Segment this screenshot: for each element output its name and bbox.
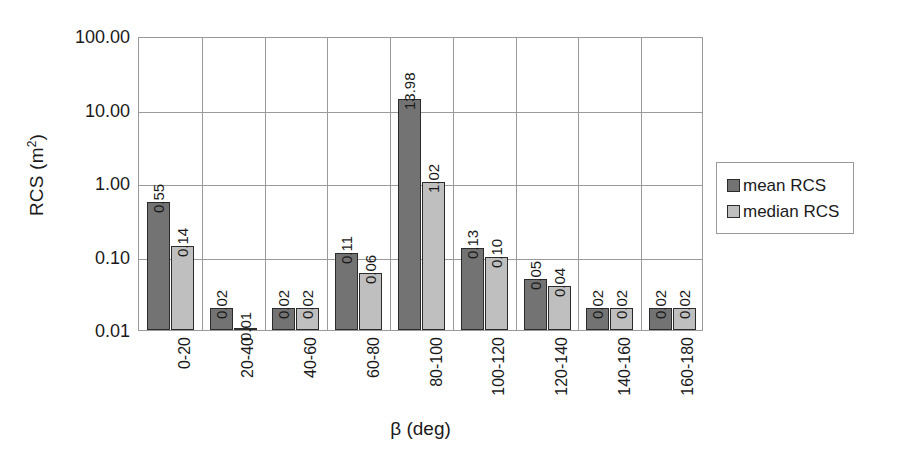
legend-item: median RCS [727,198,839,224]
y-axis-tick-label: 1.00 [36,175,130,193]
bar-group: 0.020.02 [649,38,696,330]
bar-value-label: 0.02 [300,290,315,319]
y-axis-tick-label: 10.00 [36,102,130,120]
bar-mean [147,202,170,330]
bar-mean [335,253,358,330]
vertical-gridline [453,38,454,330]
bar-value-label: 0.04 [552,268,567,297]
vertical-gridline [516,38,517,330]
bar-mean [461,248,484,330]
bar-median [422,182,445,330]
bar-median [171,246,194,330]
bar-value-label: 0.05 [528,260,543,289]
bar-value-label: 0.02 [677,290,692,319]
x-axis-tick-label: 20-40 [240,337,256,378]
x-axis-tick-label: 80-100 [429,337,445,387]
bar-group: 0.020.01 [210,38,257,330]
bar-group: 0.550.14 [147,38,194,330]
y-axis-tick-label: 100.00 [36,28,130,46]
legend-swatch-mean [727,179,740,192]
legend-label: median RCS [743,203,839,220]
bar-group: 13.981.02 [398,38,445,330]
plot-area: 0.550.140.020.010.020.020.110.0613.981.0… [138,37,703,331]
bar-value-label: 0.02 [214,290,229,319]
bar-value-label: 0.11 [339,236,354,264]
x-axis-tick-label: 40-60 [303,337,319,378]
vertical-gridline [265,38,266,330]
bar-value-label: 0.10 [489,238,504,267]
bar-value-label: 0.06 [363,255,378,284]
vertical-gridline [390,38,391,330]
bar-value-label: 13.98 [402,72,417,110]
bar-value-label: 0.02 [590,290,605,319]
y-axis-tick-label: 0.01 [36,322,130,340]
x-axis-tick-label: 0-20 [177,337,193,369]
rcs-bar-chart: RCS (m2) 100.0010.001.000.100.01 0.550.1… [0,0,912,459]
bar-value-label: 0.02 [276,290,291,319]
bar-value-label: 0.02 [614,290,629,319]
bar-mean [398,99,421,330]
bar-group: 0.050.04 [524,38,571,330]
vertical-gridline [202,38,203,330]
bar-value-label: 0.14 [175,228,190,257]
y-axis-tick-label: 0.10 [36,249,130,267]
bar-value-label: 0.13 [465,230,480,259]
vertical-gridline [327,38,328,330]
bar-value-label: 1.02 [426,164,441,193]
x-axis-tick-label: 100-120 [491,337,507,396]
vertical-gridline [578,38,579,330]
chart-legend: mean RCSmedian RCS [716,162,854,234]
legend-label: mean RCS [743,177,826,194]
bar-group: 0.020.02 [586,38,633,330]
bar-value-label: 0.55 [151,184,166,213]
x-axis-tick-labels: 0-2020-4040-6060-8080-100100-120120-1401… [138,333,703,423]
legend-swatch-median [727,205,740,218]
legend-item: mean RCS [727,172,839,198]
bar-value-label: 0.02 [653,290,668,319]
vertical-gridline [641,38,642,330]
x-axis-tick-label: 160-180 [680,337,696,396]
bar-group: 0.020.02 [272,38,319,330]
x-axis-tick-label: 140-160 [617,337,633,396]
x-axis-tick-label: 60-80 [366,337,382,378]
x-axis-tick-label: 120-140 [554,337,570,396]
x-axis-title: β (deg) [138,418,703,440]
y-axis-tick-labels: 100.0010.001.000.100.01 [34,0,130,459]
bar-group: 0.130.10 [461,38,508,330]
bar-group: 0.110.06 [335,38,382,330]
